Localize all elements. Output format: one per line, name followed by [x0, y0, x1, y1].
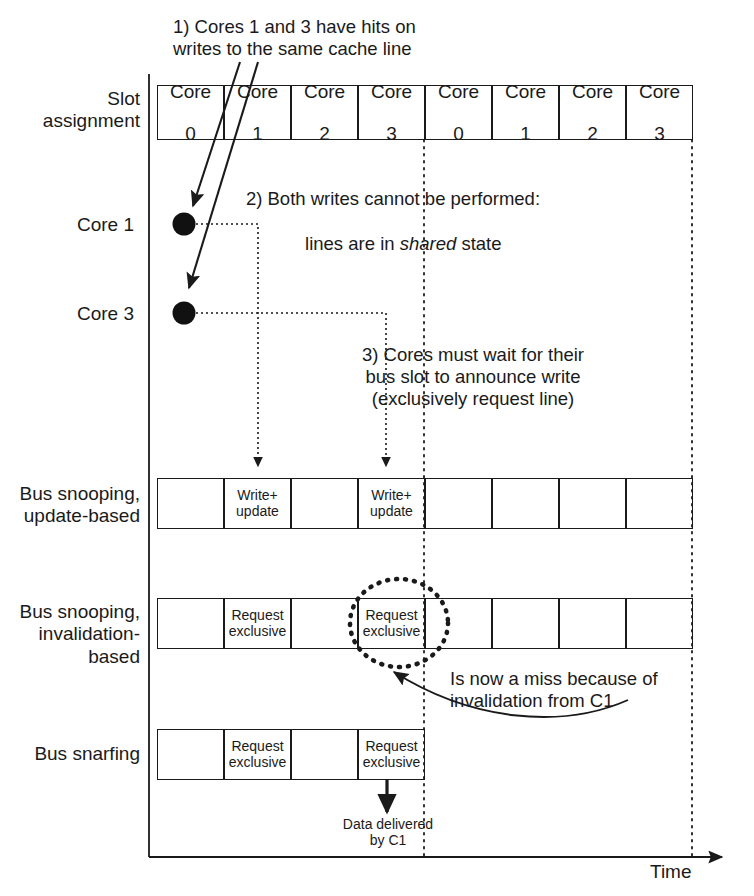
slot-cell-line1: Core — [371, 81, 412, 102]
slot-cell[interactable]: Core1 — [224, 85, 291, 140]
bus-update-cell[interactable] — [425, 478, 492, 529]
note2-text-a: lines are in — [305, 233, 400, 254]
annotation-note-2-line2: lines are in shared state — [228, 211, 558, 276]
bus-snooping-update-row: Write+update Write+update — [157, 478, 693, 529]
slot-cell-line2: 1 — [505, 123, 546, 144]
row-label-slot-assignment: Slotassignment — [8, 88, 140, 133]
annotation-note-5: Data deliveredby C1 — [310, 816, 466, 848]
bus-snarfing-row: Requestexclusive Requestexclusive — [157, 729, 425, 780]
slot-cell-line1: Core — [639, 81, 680, 102]
core3-event-dot — [173, 302, 196, 325]
bus-update-cell[interactable] — [559, 478, 626, 529]
annotation-note-1: 1) Cores 1 and 3 have hits onwrites to t… — [173, 16, 473, 60]
row-label-bus-snooping-update: Bus snooping,update-based — [4, 483, 140, 528]
slot-cell-line1: Core — [304, 81, 345, 102]
bus-invalidate-cell[interactable] — [157, 598, 224, 649]
slot-cell-line2: 3 — [639, 123, 680, 144]
bus-update-cell-text: Write+update — [370, 488, 413, 519]
slot-cell-line1: Core — [438, 81, 479, 102]
bus-snarfing-cell-text: Requestexclusive — [363, 739, 421, 770]
row-label-bus-snarfing: Bus snarfing — [4, 743, 140, 765]
slot-cell[interactable]: Core3 — [626, 85, 693, 140]
bus-update-cell[interactable] — [291, 478, 358, 529]
slot-cell-line1: Core — [505, 81, 546, 102]
bus-invalidate-cell[interactable] — [559, 598, 626, 649]
slot-cell-line1: Core — [572, 81, 613, 102]
bus-snarfing-cell-text: Requestexclusive — [229, 739, 287, 770]
bus-invalidate-cell-text: Requestexclusive — [363, 608, 421, 639]
bus-invalidate-cell-text: Requestexclusive — [229, 608, 287, 639]
bus-invalidate-cell[interactable]: Requestexclusive — [224, 598, 291, 649]
slot-cell[interactable]: Core0 — [425, 85, 492, 140]
slot-cell[interactable]: Core0 — [157, 85, 224, 140]
bus-snarfing-cell[interactable]: Requestexclusive — [358, 729, 425, 780]
slot-cell-line1: Core — [170, 81, 211, 102]
slot-cell[interactable]: Core3 — [358, 85, 425, 140]
bus-snarfing-cell[interactable]: Requestexclusive — [224, 729, 291, 780]
annotation-note-2-line1: 2) Both writes cannot be performed: — [228, 188, 558, 210]
bus-snarfing-cell[interactable] — [157, 729, 224, 780]
slot-cell[interactable]: Core2 — [291, 85, 358, 140]
annotation-note-4: Is now a miss because ofinvalidation fro… — [450, 668, 750, 712]
diagram-canvas: 1) Cores 1 and 3 have hits onwrites to t… — [0, 0, 754, 896]
row-label-bus-snooping-invalidation: Bus snooping,invalidation-based — [4, 601, 140, 668]
slot-cell-line2: 2 — [304, 123, 345, 144]
bus-invalidate-cell[interactable]: Requestexclusive — [358, 598, 425, 649]
time-axis-label: Time — [650, 861, 692, 883]
slot-cell[interactable]: Core2 — [559, 85, 626, 140]
bus-update-cell[interactable] — [157, 478, 224, 529]
bus-snarfing-cell[interactable] — [291, 729, 358, 780]
bus-update-cell[interactable]: Write+update — [224, 478, 291, 529]
slot-cell-line2: 0 — [170, 123, 211, 144]
slot-cell-line2: 3 — [371, 123, 412, 144]
bus-update-cell-text: Write+update — [236, 488, 279, 519]
note2-text-b: state — [456, 233, 501, 254]
slot-cell-line2: 2 — [572, 123, 613, 144]
row-label-core-3: Core 3 — [8, 303, 134, 325]
slot-cell-line2: 1 — [237, 123, 278, 144]
slot-cell-line1: Core — [237, 81, 278, 102]
slot-assignment-row: Core0 Core1 Core2 Core3 Core0 Core1 Core… — [157, 85, 693, 140]
bus-update-cell[interactable] — [626, 478, 693, 529]
annotation-note-3: 3) Cores must wait for theirbus slot to … — [308, 344, 638, 409]
bus-invalidate-cell[interactable] — [425, 598, 492, 649]
slot-cell[interactable]: Core1 — [492, 85, 559, 140]
note2-text-italic: shared — [400, 233, 457, 254]
bus-invalidate-cell[interactable] — [626, 598, 693, 649]
bus-snooping-invalidation-row: Requestexclusive Requestexclusive — [157, 598, 693, 649]
slot-cell-line2: 0 — [438, 123, 479, 144]
core1-event-dot — [173, 213, 196, 236]
bus-invalidate-cell[interactable] — [492, 598, 559, 649]
bus-invalidate-cell[interactable] — [291, 598, 358, 649]
bus-update-cell[interactable] — [492, 478, 559, 529]
row-label-core-1: Core 1 — [8, 214, 134, 236]
bus-update-cell[interactable]: Write+update — [358, 478, 425, 529]
